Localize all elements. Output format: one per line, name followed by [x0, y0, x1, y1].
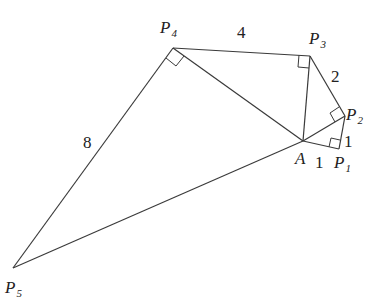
segment-P2-P3 [310, 56, 345, 116]
segment-A-P4 [173, 48, 303, 141]
segment-A-P5 [13, 141, 303, 268]
label-P2: P2 [345, 105, 363, 126]
length-label-P4-P5: 8 [83, 133, 92, 152]
label-P5: P5 [4, 278, 22, 299]
length-label-P2-P3: 2 [331, 67, 340, 86]
right-angle-mark-P4 [166, 56, 184, 66]
segment-P4-P5 [13, 48, 173, 268]
right-angle-mark-P3 [298, 55, 309, 68]
segment-A-P2 [303, 116, 345, 141]
label-A: A [294, 149, 306, 168]
label-P4: P4 [159, 18, 177, 39]
right-angle-mark-P1 [329, 138, 340, 147]
segment-P3-P4 [173, 48, 310, 56]
label-P3: P3 [308, 29, 326, 50]
length-label-P1-P2: 1 [344, 132, 353, 151]
label-P1: P1 [333, 153, 351, 174]
segment-A-P1 [303, 141, 339, 149]
length-label-P3-P4: 4 [237, 23, 246, 42]
spiral-triangle-diagram: A P1 P2 P3 P4 P5 1 1 2 4 8 [0, 0, 371, 299]
length-label-A-P1: 1 [315, 153, 324, 172]
segment-A-P3 [303, 56, 310, 141]
